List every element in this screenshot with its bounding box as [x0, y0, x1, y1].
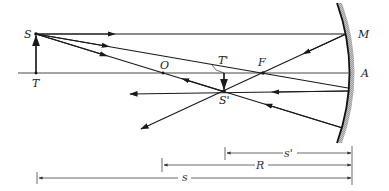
label-s-prime: S': [219, 94, 230, 107]
label-s-prime-dim: s': [284, 147, 293, 160]
label-f: F: [257, 56, 266, 69]
label-t-prime: T': [218, 54, 228, 67]
dim-s: s: [37, 171, 351, 184]
label-s: S: [24, 28, 32, 41]
label-s-dim: s: [182, 171, 188, 184]
label-t: T: [32, 77, 41, 90]
label-o: O: [160, 59, 169, 72]
ray-through-focus: [36, 34, 348, 94]
dim-s-prime: s': [225, 147, 351, 160]
mirror-ray-diagram: S T O T' F S' M A s' R s: [0, 0, 389, 191]
ray-through-center: [36, 34, 341, 128]
dim-r: R: [162, 158, 351, 172]
point-t: [35, 72, 38, 75]
label-r-dim: R: [255, 159, 264, 172]
label-a: A: [360, 67, 369, 80]
label-m: M: [357, 28, 370, 41]
